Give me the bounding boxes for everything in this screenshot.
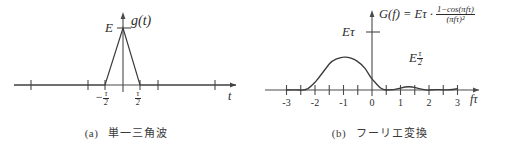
formula-left-side: G(f) = Eτ · bbox=[379, 7, 433, 21]
x-tick-label-minus-half-tau: −τ2 bbox=[95, 90, 109, 107]
fraction-tau-over-2: τ2 bbox=[417, 50, 423, 68]
x-tick-label-3: 3 bbox=[455, 97, 460, 108]
y-axis-label-E-tau: Eτ bbox=[342, 25, 355, 38]
x-tick-label-0: 0 bbox=[370, 97, 375, 108]
caption-b-text: フーリエ変換 bbox=[356, 127, 428, 140]
peak-label-E-half-tau: Eτ2 bbox=[409, 50, 423, 68]
panel-single-triangle-wave: g(t) E t −τ2 τ2 (a)単一三角波 bbox=[0, 0, 253, 152]
x-tick-label-1: 1 bbox=[398, 97, 403, 108]
formula-fraction: 1−cos(πfτ)(πfτ)² bbox=[436, 5, 475, 24]
caption-a: (a)単一三角波 bbox=[0, 124, 253, 140]
caption-b: (b)フーリエ変換 bbox=[253, 124, 507, 140]
peak-label-base: E bbox=[409, 50, 417, 65]
fraction-tau-over-2: τ2 bbox=[103, 90, 109, 107]
plot-a-svg bbox=[0, 0, 253, 120]
x-tick-label-2: 2 bbox=[427, 97, 432, 108]
fraction-tau-over-2: τ2 bbox=[135, 90, 141, 107]
minus-sign: − bbox=[95, 90, 103, 104]
panel-fourier-transform: G(f) = Eτ ·1−cos(πfτ)(πfτ)² Eτ Eτ2 fτ -3… bbox=[253, 0, 507, 152]
x-tick-label--3: -3 bbox=[282, 97, 290, 108]
x-tick-label--1: -1 bbox=[339, 97, 347, 108]
caption-a-text: 単一三角波 bbox=[108, 127, 168, 140]
formula-G-of-f: G(f) = Eτ ·1−cos(πfτ)(πfτ)² bbox=[379, 5, 475, 24]
x-axis-label-f-tau: fτ bbox=[470, 93, 478, 105]
y-axis-arrow-a bbox=[121, 12, 126, 19]
triangle-pulse-curve bbox=[14, 28, 236, 85]
caption-b-tag: (b) bbox=[332, 127, 346, 139]
x-tick-label-plus-half-tau: τ2 bbox=[135, 90, 141, 107]
amplitude-label-E: E bbox=[105, 21, 113, 34]
figure-root: g(t) E t −τ2 τ2 (a)単一三角波 bbox=[0, 0, 507, 152]
x-tick-label--2: -2 bbox=[311, 97, 319, 108]
caption-a-tag: (a) bbox=[85, 127, 99, 139]
x-axis-label-t: t bbox=[228, 90, 231, 102]
y-axis-arrow-b bbox=[370, 10, 375, 17]
function-label-g-of-t: g(t) bbox=[131, 14, 151, 28]
